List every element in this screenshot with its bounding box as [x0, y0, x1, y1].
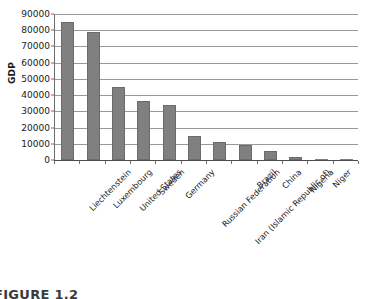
- y-axis-tick-label: 90000: [21, 9, 50, 19]
- x-axis-category-label: Germany: [183, 167, 217, 201]
- plot-area: [54, 14, 358, 160]
- x-axis-tick-mark: [155, 161, 156, 164]
- y-axis-tick-label: 50000: [21, 74, 50, 84]
- bar[interactable]: [213, 142, 226, 160]
- y-axis-tick-label: 0: [44, 155, 50, 165]
- x-axis-tick-mark: [231, 161, 232, 164]
- bar[interactable]: [137, 101, 150, 160]
- figure-container: GDP 010000200003000040000500006000070000…: [0, 0, 368, 299]
- y-axis-tick-label: 20000: [21, 123, 50, 133]
- x-axis-category-label: China: [280, 167, 304, 191]
- bar[interactable]: [239, 145, 252, 160]
- x-axis-category-label: Niger: [330, 167, 353, 190]
- y-axis-tick-label: 70000: [21, 41, 50, 51]
- x-axis-tick-mark: [130, 161, 131, 164]
- x-axis-tick-mark: [307, 161, 308, 164]
- x-axis-tick-mark: [257, 161, 258, 164]
- x-axis-tick-mark: [54, 161, 55, 164]
- bar[interactable]: [61, 22, 74, 160]
- bar[interactable]: [188, 136, 201, 160]
- x-axis-tick-mark: [282, 161, 283, 164]
- bars-layer: [55, 14, 358, 160]
- bar[interactable]: [112, 87, 125, 160]
- x-axis-tick-mark: [206, 161, 207, 164]
- bar[interactable]: [163, 105, 176, 160]
- y-axis-tick-label: 80000: [21, 25, 50, 35]
- bar[interactable]: [87, 32, 100, 160]
- y-axis-tick-label: 40000: [21, 90, 50, 100]
- y-axis-tick-label: 10000: [21, 139, 50, 149]
- figure-caption: FIGURE 1.2: [0, 287, 78, 299]
- x-axis-label-group: LiechtensteinLuxembourgUnited StatesSwed…: [0, 165, 368, 299]
- y-axis-tick-label: 30000: [21, 106, 50, 116]
- x-axis-tick-mark: [181, 161, 182, 164]
- x-axis-tick-mark: [79, 161, 80, 164]
- x-axis-tick-mark: [333, 161, 334, 164]
- y-axis-tick-group: 0100002000030000400005000060000700008000…: [0, 0, 54, 170]
- x-axis-tick-mark: [105, 161, 106, 164]
- x-axis-tick-mark: [358, 161, 359, 164]
- bar[interactable]: [264, 151, 277, 160]
- y-axis-tick-label: 60000: [21, 58, 50, 68]
